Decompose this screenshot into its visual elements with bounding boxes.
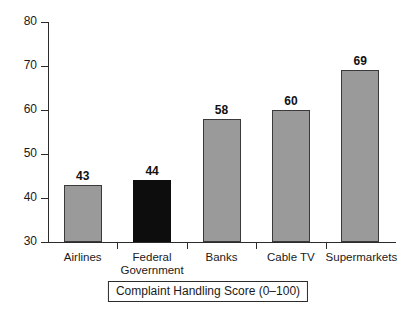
x-axis-category-label: Banks (187, 251, 256, 264)
bar-chart: 304050607080 4344586069 AirlinesFederal … (0, 0, 416, 312)
bar: 43 (64, 185, 102, 242)
y-tick-label: 60 (24, 102, 37, 116)
y-tick: 30 (41, 242, 48, 243)
x-tick (187, 243, 188, 249)
x-tick (117, 243, 118, 249)
x-axis-title: Complaint Handling Score (0–100) (108, 281, 308, 302)
y-tick: 40 (41, 198, 48, 199)
y-tick-label: 30 (24, 234, 37, 248)
y-tick: 50 (41, 154, 48, 155)
bar: 69 (341, 70, 379, 242)
x-axis-category-label: Cable TV (256, 251, 325, 264)
x-axis-line (48, 242, 396, 243)
y-tick-label: 70 (24, 58, 37, 72)
x-axis-category-label: Airlines (48, 251, 117, 264)
bar-value-label: 44 (145, 164, 158, 178)
bar-value-label: 58 (215, 103, 228, 117)
x-axis-category-label: Federal Government (117, 251, 186, 277)
plot-area: 4344586069 (48, 22, 395, 242)
bar-value-label: 43 (76, 169, 89, 183)
y-tick: 60 (41, 110, 48, 111)
x-tick (256, 243, 257, 249)
y-tick: 70 (41, 66, 48, 67)
bar: 44 (133, 180, 171, 242)
x-axis-category-label: Supermarkets (326, 251, 395, 264)
y-tick-label: 50 (24, 146, 37, 160)
y-tick-label: 80 (24, 14, 37, 28)
bar: 58 (203, 119, 241, 242)
bar-value-label: 69 (354, 54, 367, 68)
y-tick-label: 40 (24, 190, 37, 204)
x-tick (326, 243, 327, 249)
bar: 60 (272, 110, 310, 242)
bar-value-label: 60 (284, 94, 297, 108)
y-tick: 80 (41, 22, 48, 23)
